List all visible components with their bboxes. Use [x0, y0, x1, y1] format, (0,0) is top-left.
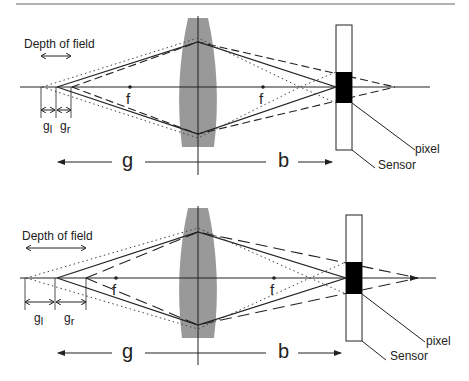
far-limit-label-top: gr	[60, 120, 70, 135]
focal-label-left-bottom: f	[112, 282, 116, 297]
image-distance-label-top: b	[278, 150, 289, 170]
dof-label-top: Depth of field	[24, 38, 95, 50]
object-distance-label-top: g	[122, 150, 133, 170]
focal-label-right-bottom: f	[270, 282, 274, 297]
object-distance-label-bottom: g	[122, 341, 133, 361]
pixel-label-top: pixel	[415, 143, 440, 155]
dof-label-bottom: Depth of field	[22, 230, 93, 242]
pixel-bottom	[346, 262, 362, 294]
sensor-label-top: Sensor	[378, 159, 416, 171]
near-limit-label-top: gl	[43, 120, 52, 135]
far-limit-label-bottom: gr	[64, 312, 74, 327]
pixel-top	[336, 72, 352, 103]
sensor-label-bottom: Sensor	[390, 350, 428, 362]
focal-label-right-top: f	[259, 91, 263, 106]
near-limit-label-bottom: gl	[34, 312, 43, 327]
pixel-label-bottom: pixel	[426, 335, 451, 347]
focal-label-left-top: f	[126, 91, 130, 106]
image-distance-label-bottom: b	[278, 341, 289, 361]
